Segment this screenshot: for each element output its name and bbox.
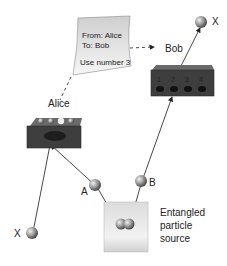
alice-label: Alice [48,98,70,109]
note-from: From: Alice [82,31,123,40]
source-label-3: source [160,233,190,244]
x-right-label: X [212,16,219,27]
bob-port-1: 1 [157,76,161,83]
note-to: To: Bob [82,41,110,50]
alice-port-sphere [38,118,44,124]
message-note: From: Alice To: Bob Use number 3 [73,16,131,75]
x-left-label: X [14,228,21,239]
alice-port-sphere [48,118,54,124]
bob-port-2: 2 [171,76,175,83]
source-label-2: particle [160,220,193,231]
particle-x-right [195,16,207,28]
entangled-source-box [104,202,148,252]
bob-label: Bob [165,43,183,54]
particle-a [89,179,101,191]
entanglement-diagram: From: Alice To: Bob Use number 3 Bob Ali… [0,0,227,266]
particle-a-label: A [81,186,88,197]
note-body: Use number 3 [80,58,131,67]
bob-port-3: 3 [185,76,189,83]
bob-detector-box: 1 2 3 4 [151,65,214,96]
alice-port-sphere [68,118,74,124]
entangled-particle [124,219,135,230]
particle-x-left [26,227,38,239]
particle-b [135,175,147,187]
particle-b-label: B [149,177,156,188]
source-label-1: Entangled [160,207,205,218]
bob-port-4: 4 [199,76,203,83]
alice-port-sphere [58,118,64,124]
alice-detector-box [27,118,82,148]
